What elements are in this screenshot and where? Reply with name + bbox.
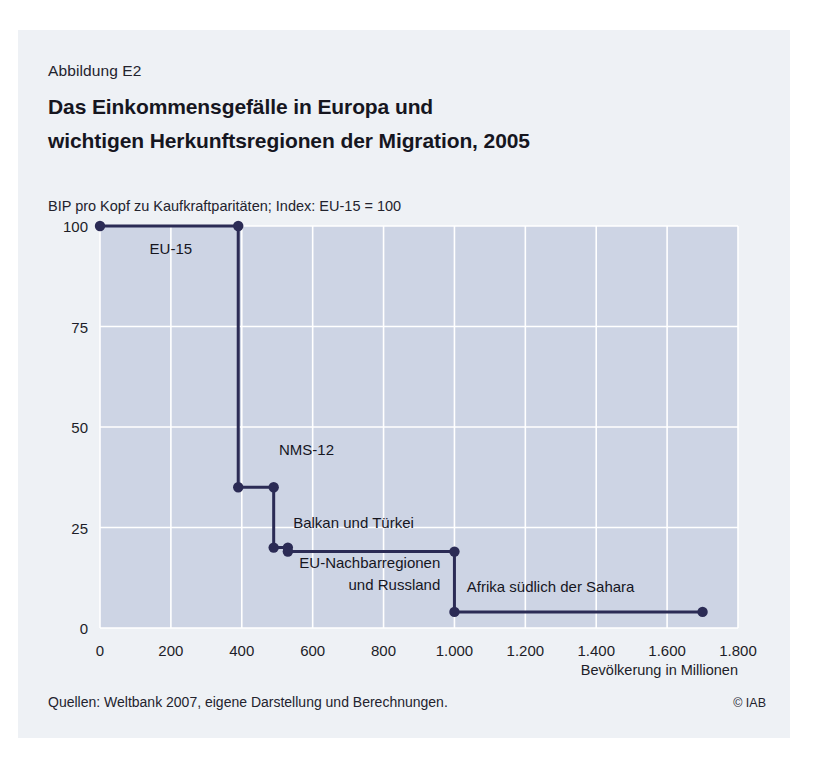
y-tick-label: 0 [80,620,88,637]
x-tick-label: 1.000 [436,642,474,659]
x-tick-label: 600 [300,642,325,659]
x-axis-tick-labels: 02004006008001.0001.2001.4001.6001.800 [96,642,757,659]
data-point-marker [233,482,243,492]
series-label: und Russland [349,576,441,593]
data-point-marker [449,607,459,617]
x-tick-label: 200 [158,642,183,659]
x-tick-label: 1.200 [507,642,545,659]
y-tick-label: 50 [71,419,88,436]
figure-panel: Abbildung E2 Das Einkommensgefälle in Eu… [18,30,790,738]
data-point-marker [697,607,707,617]
x-tick-label: 0 [96,642,104,659]
series-label: EU-Nachbarregionen [299,554,440,571]
x-tick-label: 1.800 [719,642,757,659]
data-point-marker [268,482,278,492]
source-note: Quellen: Weltbank 2007, eigene Darstellu… [48,694,448,710]
chart-plot-area: 02004006008001.0001.2001.4001.6001.800 0… [18,30,790,738]
step-chart-svg: 02004006008001.0001.2001.4001.6001.800 0… [18,30,790,738]
data-point-marker [283,546,293,556]
x-tick-label: 400 [229,642,254,659]
data-point-marker [95,221,105,231]
series-label: NMS-12 [279,441,334,458]
copyright-label: © IAB [733,696,766,710]
y-tick-label: 25 [71,520,88,537]
x-tick-label: 1.600 [648,642,686,659]
data-point-marker [233,221,243,231]
x-tick-label: 800 [371,642,396,659]
y-axis-tick-labels: 0255075100 [63,218,88,637]
series-label: Balkan und Türkei [293,514,414,531]
series-label: EU-15 [150,240,193,257]
y-tick-label: 75 [71,319,88,336]
x-tick-label: 1.400 [577,642,615,659]
data-point-marker [268,542,278,552]
x-axis-title: Bevölkerung in Millionen [581,662,738,678]
data-point-marker [449,546,459,556]
series-label: Afrika südlich der Sahara [467,578,635,595]
y-tick-label: 100 [63,218,88,235]
